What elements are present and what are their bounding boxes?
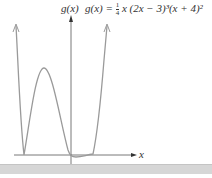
x-axis-label: x [139, 148, 144, 160]
function-curve [16, 26, 107, 157]
x-axis-arrow-icon [131, 153, 137, 157]
equation-lhs: g(x) = [85, 2, 116, 14]
y-axis-label: g(x) [61, 2, 79, 14]
equation-rhs: x (2x − 3)³(x + 4)² [119, 2, 203, 14]
function-graph [0, 0, 212, 178]
equation-label: g(x) = 14 x (2x − 3)³(x + 4)² [85, 2, 203, 17]
y-axis-arrow-icon [69, 15, 73, 22]
bottom-band [0, 164, 212, 174]
